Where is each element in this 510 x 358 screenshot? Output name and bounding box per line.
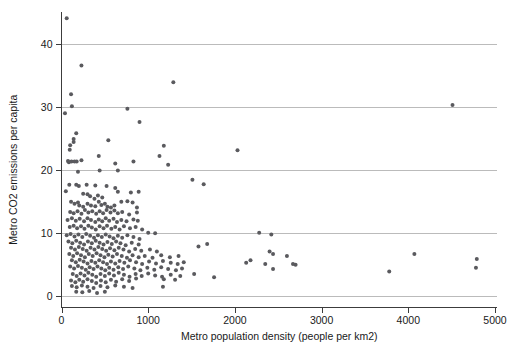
- data-point: [94, 275, 98, 279]
- data-point: [119, 200, 123, 204]
- data-point: [159, 265, 163, 269]
- x-tick-label-0: 0: [59, 314, 65, 326]
- data-point: [67, 183, 71, 187]
- data-point: [103, 274, 107, 278]
- data-point: [107, 271, 111, 275]
- data-point: [105, 240, 109, 244]
- data-point: [73, 234, 77, 238]
- data-point: [105, 224, 109, 228]
- data-point: [105, 285, 109, 289]
- data-point: [92, 286, 96, 290]
- data-point: [79, 158, 83, 162]
- data-point: [451, 103, 455, 107]
- data-point: [131, 160, 135, 164]
- data-point: [161, 285, 165, 289]
- tick-labels: 010203040010002000300040005000: [41, 38, 507, 325]
- data-point: [134, 260, 138, 264]
- data-point: [69, 246, 73, 250]
- data-point: [70, 258, 74, 262]
- data-point: [127, 279, 131, 283]
- data-point: [65, 233, 69, 237]
- data-point: [99, 284, 103, 288]
- data-point: [182, 260, 186, 264]
- data-point: [131, 286, 135, 290]
- data-point: [128, 275, 132, 279]
- data-point: [120, 254, 124, 258]
- data-point: [94, 281, 98, 285]
- x-tick-label-5000: 5000: [483, 314, 507, 326]
- data-point: [79, 212, 83, 216]
- data-point: [104, 249, 108, 253]
- data-point: [148, 248, 152, 252]
- data-point: [412, 252, 416, 256]
- data-point: [106, 138, 110, 142]
- data-point: [70, 216, 74, 220]
- data-point: [134, 225, 138, 229]
- data-point: [162, 144, 166, 148]
- data-point: [97, 200, 101, 204]
- data-point: [155, 249, 159, 253]
- data-point: [128, 258, 132, 262]
- data-point: [146, 231, 150, 235]
- data-point: [138, 268, 142, 272]
- data-point: [83, 208, 87, 212]
- data-point: [105, 262, 109, 266]
- data-point: [125, 199, 129, 203]
- data-point: [69, 200, 73, 204]
- data-point: [77, 278, 81, 282]
- data-point: [131, 235, 135, 239]
- tick-marks: [56, 45, 496, 313]
- data-point: [92, 197, 96, 201]
- data-point: [100, 219, 104, 223]
- data-point: [92, 248, 96, 252]
- data-point: [82, 243, 86, 247]
- data-point: [145, 266, 149, 270]
- data-point: [153, 231, 157, 235]
- data-point: [79, 224, 83, 228]
- data-point: [126, 265, 130, 269]
- data-point: [93, 183, 97, 187]
- data-point: [74, 219, 78, 223]
- data-point: [72, 140, 76, 144]
- data-point: [263, 262, 267, 266]
- data-point: [136, 219, 140, 223]
- y-tick-label-40: 40: [41, 38, 53, 50]
- data-point: [120, 236, 124, 240]
- y-tick-label-20: 20: [41, 164, 53, 176]
- data-point: [105, 208, 109, 212]
- data-point: [212, 275, 216, 279]
- data-point: [81, 192, 85, 196]
- data-point: [72, 211, 76, 215]
- data-point: [78, 217, 82, 221]
- data-point: [86, 277, 90, 281]
- data-point: [68, 265, 72, 269]
- data-point: [121, 267, 125, 271]
- data-point: [249, 258, 253, 262]
- data-point: [102, 255, 106, 259]
- data-point: [103, 268, 107, 272]
- data-point: [474, 266, 478, 270]
- data-point: [88, 194, 92, 198]
- data-point: [236, 148, 240, 152]
- data-point: [82, 260, 86, 264]
- data-point: [192, 272, 196, 276]
- data-point: [271, 267, 275, 271]
- data-point: [97, 154, 101, 158]
- data-point: [178, 274, 182, 278]
- data-point: [125, 107, 129, 111]
- data-point: [113, 161, 117, 165]
- data-point: [104, 280, 108, 284]
- data-point: [115, 220, 119, 224]
- data-point: [76, 264, 80, 268]
- data-point: [146, 271, 150, 275]
- data-point: [117, 246, 121, 250]
- data-point: [205, 242, 209, 246]
- data-point: [114, 280, 118, 284]
- data-point: [134, 277, 138, 281]
- data-point: [177, 254, 181, 258]
- data-point: [174, 268, 178, 272]
- data-point: [79, 63, 83, 67]
- data-point: [98, 241, 102, 245]
- data-point: [127, 249, 131, 253]
- data-point: [268, 249, 272, 253]
